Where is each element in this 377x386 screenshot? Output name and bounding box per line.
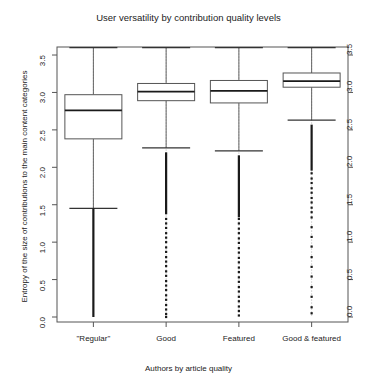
box-iqr: [283, 73, 340, 87]
outlier-point: [165, 270, 167, 272]
outlier-point: [238, 286, 240, 288]
y-tick-label: 1.5: [38, 205, 47, 216]
outlier-point: [311, 275, 313, 277]
outlier-point: [165, 261, 167, 263]
outlier-point: [238, 271, 240, 273]
outlier-point: [311, 286, 313, 288]
outlier-point: [311, 306, 313, 308]
x-tick-label: Featured: [223, 334, 255, 343]
outlier-point: [311, 197, 313, 199]
outlier-point: [311, 172, 313, 174]
outlier-point: [311, 211, 313, 213]
outlier-point: [311, 266, 313, 268]
y-tick-label: 3.0: [345, 81, 354, 92]
plot-area: [0, 0, 377, 386]
outlier-point: [238, 252, 240, 254]
outlier-point: [238, 276, 240, 278]
outlier-point: [238, 218, 240, 220]
outlier-point: [238, 247, 240, 249]
outlier-point: [238, 266, 240, 268]
y-tick-label: 3.0: [38, 92, 47, 103]
outlier-point: [311, 177, 313, 179]
outlier-point: [311, 246, 313, 248]
x-tick-label: Good & featured: [282, 334, 341, 343]
outlier-point: [238, 305, 240, 307]
outlier-point: [238, 300, 240, 302]
y-tick-label: 1.0: [345, 231, 354, 242]
outlier-point: [165, 316, 167, 318]
y-tick-label: 3.5: [38, 55, 47, 66]
outlier-point: [165, 222, 167, 224]
outlier-point: [311, 236, 313, 238]
outlier-point: [165, 280, 167, 282]
outlier-point: [311, 216, 313, 218]
outlier-point: [238, 296, 240, 298]
outlier-point: [165, 246, 167, 248]
outlier-point: [311, 207, 313, 209]
y-tick-label: 0.5: [38, 280, 47, 291]
outlier-point: [238, 310, 240, 312]
outlier-point: [165, 299, 167, 301]
outlier-point: [238, 261, 240, 263]
outlier-point: [165, 284, 167, 286]
outlier-point: [165, 275, 167, 277]
box-iqr: [65, 95, 122, 139]
y-tick-label: 0.0: [345, 306, 354, 317]
outlier-point: [311, 256, 313, 258]
outlier-point: [311, 182, 313, 184]
y-tick-label: 0.0: [38, 317, 47, 328]
y-tick-label: 1.0: [38, 242, 47, 253]
outlier-point: [238, 290, 240, 292]
y-tick-label: 2.5: [38, 130, 47, 141]
outlier-point: [165, 251, 167, 253]
outlier-point: [165, 289, 167, 291]
outlier-point: [165, 294, 167, 296]
y-tick-label: 3.5: [345, 44, 354, 55]
outlier-point: [311, 192, 313, 194]
plot-frame: [57, 47, 348, 322]
y-tick-label: 2.5: [345, 119, 354, 130]
y-tick-label: 1.5: [345, 194, 354, 205]
y-tick-label: 2.0: [345, 156, 354, 167]
outlier-point: [165, 313, 167, 315]
y-tick-label: 2.0: [38, 167, 47, 178]
outlier-point: [165, 232, 167, 234]
outlier-point: [311, 312, 313, 314]
outlier-point: [238, 237, 240, 239]
outlier-point: [165, 227, 167, 229]
outlier-point: [238, 281, 240, 283]
outlier-point: [238, 222, 240, 224]
outlier-point: [311, 201, 313, 203]
x-tick-label: "Regular": [77, 334, 111, 343]
y-tick-label: 0.5: [345, 268, 354, 279]
outlier-point: [238, 232, 240, 234]
outlier-point: [165, 218, 167, 220]
outlier-point: [238, 242, 240, 244]
outlier-point: [238, 228, 240, 230]
outlier-point: [311, 226, 313, 228]
outlier-point: [165, 304, 167, 306]
outlier-point: [165, 241, 167, 243]
outlier-point: [238, 257, 240, 259]
outlier-point: [165, 237, 167, 239]
outlier-point: [311, 187, 313, 189]
outlier-point: [165, 308, 167, 310]
boxplot-figure: User versatility by contribution quality…: [0, 0, 377, 386]
outlier-point: [165, 256, 167, 258]
outlier-point: [238, 314, 240, 316]
x-tick-label: Good: [156, 334, 176, 343]
outlier-point: [311, 296, 313, 298]
outlier-point: [165, 265, 167, 267]
